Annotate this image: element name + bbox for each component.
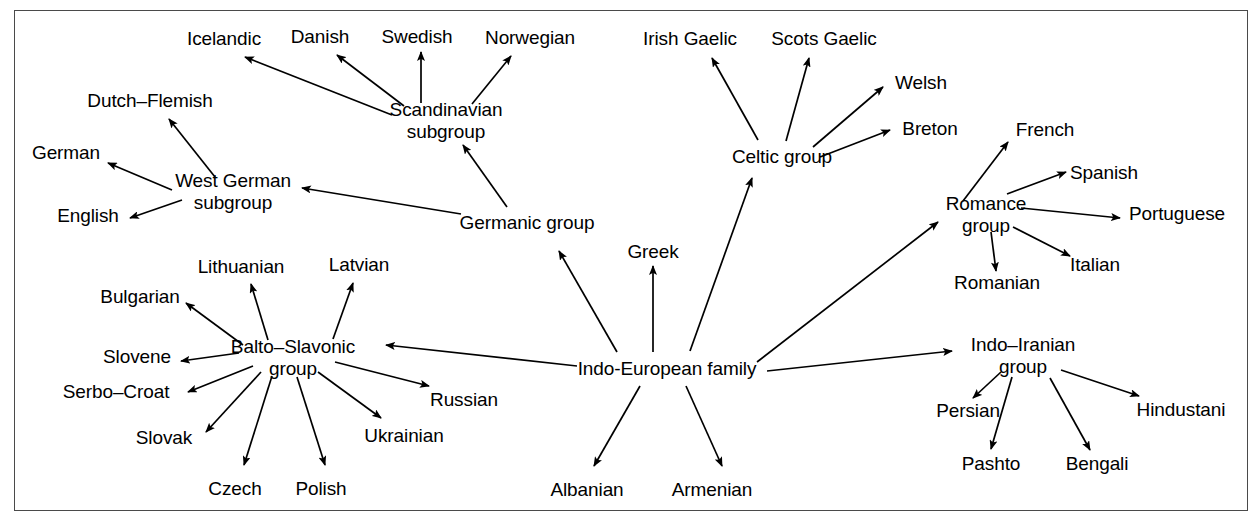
node-hindustani: Hindustani: [1137, 399, 1226, 420]
node-label-line: Welsh: [895, 72, 947, 93]
node-label-line: Italian: [1070, 254, 1120, 275]
node-label-line: Norwegian: [485, 27, 575, 48]
node-label-line: Portuguese: [1129, 203, 1225, 224]
node-label-line: Irish Gaelic: [643, 28, 737, 49]
node-serbo_croat: Serbo–Croat: [63, 381, 170, 402]
node-label-line: Slovene: [103, 346, 171, 367]
node-pashto: Pashto: [962, 453, 1021, 474]
node-label-line: Albanian: [550, 479, 623, 500]
node-danish: Danish: [291, 26, 350, 47]
node-label-line: Celtic group: [732, 146, 832, 167]
node-armenian: Armenian: [672, 479, 753, 500]
node-scots_gaelic: Scots Gaelic: [771, 28, 876, 49]
node-west_german: West Germansubgroup: [175, 170, 291, 214]
node-dutch_flemish: Dutch–Flemish: [87, 90, 212, 111]
node-indo_european: Indo-European family: [578, 358, 757, 379]
node-label-line: subgroup: [390, 121, 503, 143]
node-label-line: Germanic group: [460, 212, 595, 233]
node-label-line: Balto–Slavonic: [231, 336, 355, 358]
node-irish_gaelic: Irish Gaelic: [643, 28, 737, 49]
node-label-line: Indo-European family: [578, 358, 757, 379]
node-celtic: Celtic group: [732, 146, 832, 167]
node-russian: Russian: [430, 389, 498, 410]
node-label-line: group: [946, 215, 1027, 237]
node-slovak: Slovak: [136, 427, 192, 448]
node-label-line: Scandinavian: [390, 99, 503, 121]
node-label-line: Latvian: [329, 254, 390, 275]
node-label-line: Greek: [627, 241, 678, 262]
node-label-line: group: [971, 356, 1075, 378]
node-label-line: Swedish: [381, 26, 452, 47]
node-slovene: Slovene: [103, 346, 171, 367]
node-bengali: Bengali: [1066, 453, 1129, 474]
node-label-line: Ukrainian: [364, 425, 443, 446]
node-label-line: German: [32, 142, 100, 163]
node-label-line: Icelandic: [187, 28, 261, 49]
node-label-line: Russian: [430, 389, 498, 410]
node-romance: Romancegroup: [946, 193, 1027, 237]
node-breton: Breton: [902, 118, 957, 139]
node-lithuanian: Lithuanian: [198, 256, 285, 277]
node-label-line: Persian: [936, 400, 1000, 421]
node-romanian: Romanian: [954, 272, 1040, 293]
node-swedish: Swedish: [381, 26, 452, 47]
node-french: French: [1016, 119, 1075, 140]
node-bulgarian: Bulgarian: [100, 286, 179, 307]
node-germanic: Germanic group: [460, 212, 595, 233]
node-german: German: [32, 142, 100, 163]
node-persian: Persian: [936, 400, 1000, 421]
node-czech: Czech: [208, 478, 261, 499]
node-label-line: subgroup: [175, 192, 291, 214]
node-label-line: Romance: [946, 193, 1027, 215]
node-ukrainian: Ukrainian: [364, 425, 443, 446]
node-welsh: Welsh: [895, 72, 947, 93]
node-label-line: French: [1016, 119, 1075, 140]
node-label-line: English: [57, 205, 119, 226]
node-portuguese: Portuguese: [1129, 203, 1225, 224]
node-greek: Greek: [627, 241, 678, 262]
node-label-line: West German: [175, 170, 291, 192]
node-scandinavian: Scandinaviansubgroup: [390, 99, 503, 143]
node-icelandic: Icelandic: [187, 28, 261, 49]
node-balto_slavonic: Balto–Slavonicgroup: [231, 336, 355, 380]
node-label-line: Serbo–Croat: [63, 381, 170, 402]
node-label-line: Scots Gaelic: [771, 28, 876, 49]
node-label-line: Spanish: [1070, 162, 1138, 183]
node-label-line: Dutch–Flemish: [87, 90, 212, 111]
node-label-line: Indo–Iranian: [971, 334, 1075, 356]
node-latvian: Latvian: [329, 254, 390, 275]
node-norwegian: Norwegian: [485, 27, 575, 48]
node-label-line: Bengali: [1066, 453, 1129, 474]
node-label-line: Romanian: [954, 272, 1040, 293]
node-indo_iranian: Indo–Iraniangroup: [971, 334, 1075, 378]
node-label-line: group: [231, 358, 355, 380]
node-label-line: Breton: [902, 118, 957, 139]
node-label-line: Pashto: [962, 453, 1021, 474]
node-italian: Italian: [1070, 254, 1120, 275]
node-label-line: Czech: [208, 478, 261, 499]
node-albanian: Albanian: [550, 479, 623, 500]
node-polish: Polish: [295, 478, 346, 499]
node-label-line: Lithuanian: [198, 256, 285, 277]
node-label-line: Polish: [295, 478, 346, 499]
node-english: English: [57, 205, 119, 226]
node-label-line: Bulgarian: [100, 286, 179, 307]
node-label-line: Armenian: [672, 479, 753, 500]
node-label-line: Slovak: [136, 427, 192, 448]
node-label-line: Hindustani: [1137, 399, 1226, 420]
node-spanish: Spanish: [1070, 162, 1138, 183]
diagram-canvas: Indo-European familyGermanic groupScandi…: [0, 0, 1258, 527]
node-label-line: Danish: [291, 26, 350, 47]
